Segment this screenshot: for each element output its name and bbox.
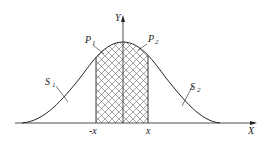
- svg-text:S: S: [45, 76, 50, 87]
- x-axis-label: X: [247, 125, 255, 136]
- s2-label: S 2: [190, 81, 201, 94]
- tick-neg-x: -x: [89, 125, 97, 136]
- svg-text:1: 1: [92, 39, 96, 47]
- shaded-area: [96, 40, 148, 124]
- svg-text:P: P: [84, 34, 91, 45]
- svg-text:P: P: [147, 33, 154, 44]
- p2-label: P 2: [147, 33, 159, 46]
- svg-text:1: 1: [52, 81, 56, 89]
- svg-text:2: 2: [197, 86, 201, 94]
- svg-text:2: 2: [155, 38, 159, 46]
- p2-leader: [138, 44, 147, 50]
- y-axis-label: Y: [115, 12, 122, 23]
- s1-label: S 1: [45, 76, 56, 89]
- tick-pos-x: x: [145, 125, 151, 136]
- normal-curve-diagram: Y X -x x P 1 P 2 S 1 S 2: [0, 0, 269, 148]
- svg-text:S: S: [190, 81, 195, 92]
- p1-label: P 1: [84, 34, 96, 47]
- y-axis-arrow-icon: [121, 15, 125, 22]
